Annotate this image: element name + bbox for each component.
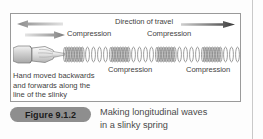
hand-motion-arrow-left-icon — [17, 20, 63, 28]
figure-caption-text: Making longitudinal waves in a slinky sp… — [100, 106, 260, 131]
hand-motion-arrow-right-icon — [25, 31, 65, 39]
figure-number-badge: Figure 9.1.2 — [10, 107, 91, 122]
figure-illustration-panel: Direction of travel — [10, 13, 241, 102]
hand-motion-note-line-1: Hand moved backwards — [13, 71, 94, 81]
hand-motion-note-line-3: line of the slinky — [13, 90, 94, 100]
compression-label-bottom-left: Compression — [108, 65, 152, 74]
figure-caption-line-2: in a slinky spring — [100, 119, 260, 132]
compression-label-top-left: Compression — [67, 29, 111, 38]
figure-caption-row: Figure 9.1.2 Making longitudinal waves i… — [10, 106, 253, 139]
direction-of-travel-label: Direction of travel — [115, 17, 173, 26]
slinky-spring-icon — [63, 44, 242, 65]
hand-motion-note: Hand moved backwards and forwards along … — [13, 71, 94, 100]
figure-caption-line-1: Making longitudinal waves — [100, 106, 260, 119]
compression-label-bottom-right: Compression — [186, 65, 230, 74]
compression-label-top-right: Compression — [147, 29, 191, 38]
hand-motion-note-line-2: and forwards along the — [13, 81, 94, 91]
direction-arrow-right-icon — [181, 21, 235, 28]
